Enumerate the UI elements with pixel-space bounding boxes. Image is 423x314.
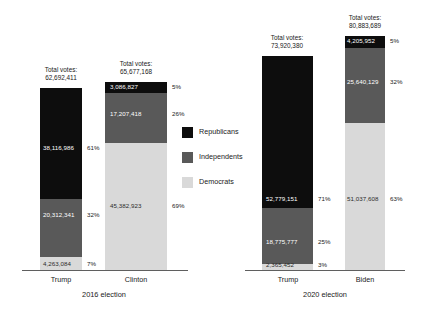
total-votes-label: Total votes: [322,14,408,22]
pct-label-independents-trump-2016: 32% [87,212,99,218]
chart-canvas: Total votes: 62,692,411 38,116,986 61% 2… [0,0,423,314]
value-label-independents-trump-2016: 20,312,341 [43,212,74,218]
category-label-trump-2020: Trump [253,276,323,283]
pct-label-democrats-trump-2016: 7% [87,261,96,267]
legend-swatch-independents-icon [182,152,193,163]
pct-label-republicans-trump-2016: 61% [87,145,99,151]
value-label-democrats-trump-2016: 4,263,084 [43,261,71,267]
value-label-democrats-trump-2020: 2,365,452 [266,262,294,268]
value-label-independents-clinton-2016: 17,207,418 [110,111,141,117]
total-votes-value: 80,883,689 [322,22,408,30]
segment-independents-trump-2016[interactable] [40,199,82,257]
total-votes-caption-biden-2020: Total votes: 80,883,689 [322,14,408,31]
total-votes-label: Total votes: [244,34,330,42]
pct-label-democrats-clinton-2016: 69% [172,203,184,209]
group-label-2016: 2016 election [54,291,154,298]
value-label-democrats-clinton-2016: 45,382,923 [110,203,141,209]
total-votes-value: 62,692,411 [18,74,104,82]
value-label-republicans-clinton-2016: 3,086,827 [110,84,138,90]
segment-independents-trump-2020[interactable] [262,208,313,264]
pct-label-republicans-biden-2020: 5% [390,38,399,44]
total-votes-value: 73,920,380 [244,42,330,50]
category-label-trump-2016: Trump [26,276,96,283]
legend-label-republicans: Republicans [199,128,239,135]
legend-item-democrats[interactable]: Democrats [182,176,270,188]
pct-label-republicans-clinton-2016: 5% [172,84,181,90]
value-label-independents-biden-2020: 25,640,129 [347,79,378,85]
total-votes-caption-clinton-2016: Total votes: 65,677,168 [93,60,179,77]
value-label-democrats-biden-2020: 51,037,608 [347,196,378,202]
segment-independents-biden-2020[interactable] [345,48,385,123]
segment-independents-clinton-2016[interactable] [105,93,167,143]
axis-line-2016 [22,270,188,271]
bar-biden-2020[interactable] [345,36,385,270]
pct-label-democrats-trump-2020: 3% [318,262,327,268]
bar-trump-2016[interactable] [40,88,82,270]
value-label-republicans-trump-2020: 52,779,151 [266,196,297,202]
legend: Republicans Independents Democrats [182,126,270,201]
pct-label-independents-trump-2020: 25% [318,239,330,245]
axis-line-2020 [245,270,405,271]
pct-label-independents-biden-2020: 32% [390,79,402,85]
group-label-2020: 2020 election [275,291,375,298]
value-label-republicans-biden-2020: 4,205,952 [347,38,375,44]
legend-item-republicans[interactable]: Republicans [182,126,270,138]
pct-label-republicans-trump-2020: 71% [318,196,330,202]
total-votes-caption-trump-2020: Total votes: 73,920,380 [244,34,330,51]
category-label-clinton-2016: Clinton [101,276,171,283]
legend-swatch-democrats-icon [182,177,193,188]
legend-label-democrats: Democrats [199,178,234,185]
total-votes-label: Total votes: [18,66,104,74]
legend-item-independents[interactable]: Independents [182,151,270,163]
pct-label-independents-clinton-2016: 26% [172,111,184,117]
legend-label-independents: Independents [199,153,243,160]
total-votes-label: Total votes: [93,60,179,68]
value-label-republicans-trump-2016: 38,116,986 [43,145,74,151]
legend-swatch-republicans-icon [182,127,193,138]
value-label-independents-trump-2020: 18,775,777 [266,239,297,245]
total-votes-value: 65,677,168 [93,68,179,76]
total-votes-caption-trump-2016: Total votes: 62,692,411 [18,66,104,83]
pct-label-democrats-biden-2020: 63% [390,196,402,202]
category-label-biden-2020: Biden [330,276,400,283]
